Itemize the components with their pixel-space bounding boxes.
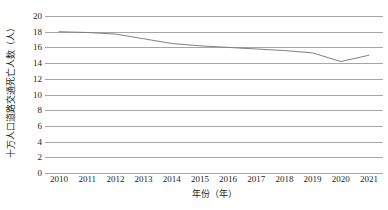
y-axis-title: 十万人口道路交通死亡人数（人） bbox=[0, 0, 22, 180]
x-tick-label-2011: 2011 bbox=[78, 175, 96, 184]
y-tick-label-4: 4 bbox=[20, 137, 42, 146]
y-tick-label-6: 6 bbox=[20, 121, 42, 130]
y-tick-label-0: 0 bbox=[20, 169, 42, 178]
series-line-deaths bbox=[59, 32, 369, 62]
x-tick-label-2013: 2013 bbox=[135, 175, 153, 184]
y-tick-label-18: 18 bbox=[20, 27, 42, 36]
y-tick-label-12: 12 bbox=[20, 74, 42, 83]
x-tick-label-2018: 2018 bbox=[275, 175, 293, 184]
y-tick-label-10: 10 bbox=[20, 90, 42, 99]
y-tick-label-2: 2 bbox=[20, 153, 42, 162]
line-chart-figure: 十万人口道路交通死亡人数（人） 20181614121086420 201020… bbox=[0, 0, 388, 210]
x-tick-label-2014: 2014 bbox=[163, 175, 181, 184]
x-tick-label-2012: 2012 bbox=[106, 175, 124, 184]
x-tick-label-2015: 2015 bbox=[191, 175, 209, 184]
y-tick-label-16: 16 bbox=[20, 43, 42, 52]
plot-area bbox=[45, 16, 383, 173]
y-tick-label-20: 20 bbox=[20, 12, 42, 21]
x-tick-label-2016: 2016 bbox=[219, 175, 237, 184]
y-axis-title-text: 十万人口道路交通死亡人数（人） bbox=[7, 23, 16, 158]
y-tick-label-8: 8 bbox=[20, 106, 42, 115]
y-tick-label-14: 14 bbox=[20, 59, 42, 68]
x-axis-title: 年份（年） bbox=[45, 190, 383, 199]
x-axis-tick-labels: 2010201120122013201420152016201720182019… bbox=[45, 175, 383, 189]
x-tick-label-2010: 2010 bbox=[50, 175, 68, 184]
x-tick-label-2021: 2021 bbox=[360, 175, 378, 184]
x-tick-label-2017: 2017 bbox=[247, 175, 265, 184]
data-series-svg bbox=[45, 16, 383, 173]
x-axis-title-text: 年份（年） bbox=[192, 189, 237, 199]
x-tick-label-2019: 2019 bbox=[304, 175, 322, 184]
x-tick-label-2020: 2020 bbox=[332, 175, 350, 184]
y-axis-tick-labels: 20181614121086420 bbox=[20, 0, 42, 180]
